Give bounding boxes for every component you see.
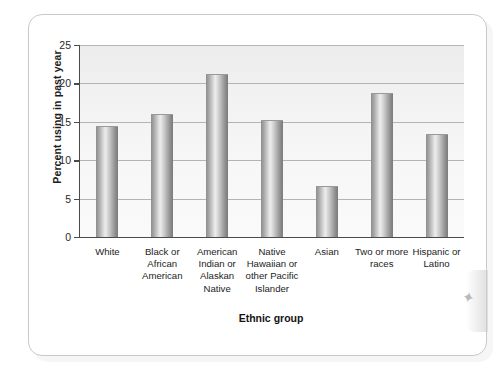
- y-tick-mark: [74, 160, 80, 161]
- x-category-label: White: [76, 246, 138, 258]
- y-tick-label: 25: [59, 39, 71, 51]
- x-category-label: Asian: [296, 246, 358, 258]
- y-tick-mark: [74, 45, 80, 46]
- bar: [316, 186, 338, 237]
- bar: [96, 126, 118, 237]
- y-tick-label: 0: [65, 231, 71, 243]
- bar: [261, 120, 283, 237]
- bar: [426, 134, 448, 237]
- plot-area: 0510152025WhiteBlack or African American…: [79, 45, 464, 238]
- y-tick-mark: [74, 237, 80, 238]
- x-axis-label: Ethnic group: [79, 312, 463, 324]
- x-category-label: Native Hawaiian or other Pacific Islande…: [241, 246, 303, 295]
- x-category-label: Hispanic or Latino: [406, 246, 468, 270]
- x-category-label: Black or African American: [131, 246, 193, 283]
- x-category-label: American Indian or Alaskan Native: [186, 246, 248, 295]
- y-tick-mark: [74, 83, 80, 84]
- y-tick-label: 20: [59, 77, 71, 89]
- bar-chart: Percent using in past year 0510152025Whi…: [29, 15, 488, 357]
- y-tick-mark: [74, 199, 80, 200]
- x-category-label: Two or more races: [351, 246, 413, 270]
- y-tick-mark: [74, 122, 80, 123]
- bar: [371, 93, 393, 237]
- textbook-page-card: Percent using in past year 0510152025Whi…: [28, 14, 487, 356]
- gridline: [80, 45, 464, 46]
- screenshot-root: Percent using in past year 0510152025Whi…: [0, 0, 500, 375]
- bar: [206, 74, 228, 237]
- bar: [151, 114, 173, 237]
- y-tick-label: 15: [59, 116, 71, 128]
- gridline: [80, 83, 464, 84]
- y-tick-label: 10: [59, 154, 71, 166]
- y-tick-label: 5: [65, 193, 71, 205]
